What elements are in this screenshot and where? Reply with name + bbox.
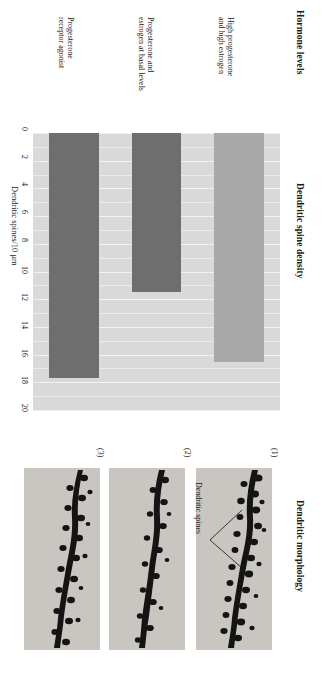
category-label-high-prog-estrogen: High progesterone and high estrogen	[216, 17, 235, 76]
y-axis-tick-label: 18	[20, 376, 29, 384]
panel-number-1: (1)	[270, 448, 279, 457]
category-label-pr-agonist: Progesterone receptor agonist	[56, 17, 75, 68]
category-label-line2: estrogen at basal levels	[136, 17, 145, 91]
y-axis-tick-label: 0	[20, 127, 29, 131]
bar	[132, 133, 181, 292]
micrograph-3	[24, 468, 100, 650]
category-label-line1: Progesterone and	[146, 17, 155, 91]
micrograph-2	[109, 468, 185, 650]
y-axis-tick-label: 10	[20, 266, 29, 274]
gridline-minor	[33, 396, 280, 397]
category-label-line1: High progesterone	[226, 17, 235, 76]
dendrite-image-3	[24, 468, 100, 650]
y-axis-tick-label: 6	[20, 210, 29, 214]
category-label-line2: receptor agonist	[56, 17, 65, 68]
y-axis-tick-label: 2	[20, 155, 29, 159]
bar	[214, 133, 263, 362]
morphology-heading: Dendritic morphology	[294, 500, 305, 592]
spine-density-heading: Dendritic spine density	[294, 183, 305, 279]
y-axis-tick-label: 12	[20, 293, 29, 301]
y-axis-tick-label: 8	[20, 238, 29, 242]
dendritic-spine-density-chart: Hormone levels Dendritic spine density H…	[0, 0, 324, 420]
gridline	[33, 382, 280, 383]
dendritic-morphology-panel: Dendritic morphology (1) (2) (3)	[0, 420, 324, 674]
y-axis-tick-label: 16	[20, 349, 29, 357]
y-axis-tick-label: 14	[20, 321, 29, 329]
category-label-line1: Progesterone	[66, 17, 75, 68]
category-label-basal-levels: Progesterone and estrogen at basal level…	[136, 17, 155, 91]
y-axis-tick-label: 4	[20, 182, 29, 186]
dendrite-image-2	[109, 468, 185, 650]
plot-area	[33, 133, 280, 410]
panel-number-3: (3)	[96, 448, 105, 457]
y-axis-tick-label: 20	[20, 404, 29, 412]
y-axis-title: Dendritic spines/10 μm	[9, 186, 19, 266]
gridline	[33, 410, 280, 411]
bar	[49, 133, 98, 378]
micrograph-1	[196, 468, 272, 650]
category-label-line2: and high estrogen	[216, 17, 225, 76]
hormone-levels-heading: Hormone levels	[294, 10, 305, 74]
dendritic-spines-annotation: Dendritic spines	[194, 482, 203, 534]
dendrite-image-1	[196, 468, 272, 650]
panel-number-2: (2)	[183, 448, 192, 457]
